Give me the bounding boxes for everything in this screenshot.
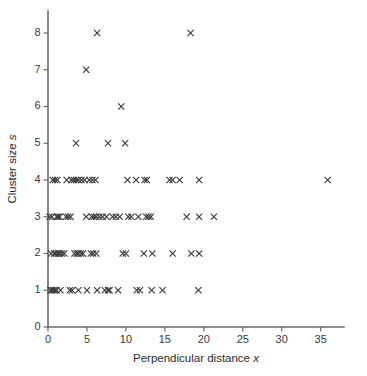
axis-title-symbol: s [6, 134, 18, 140]
x-tick-label: 10 [120, 333, 132, 345]
x-tick-label: 20 [198, 333, 210, 345]
y-tick-label: 1 [34, 283, 40, 295]
y-tick-label: 2 [34, 246, 40, 258]
y-tick-label: 8 [34, 26, 40, 38]
x-tick-label: 5 [84, 333, 90, 345]
x-tick-label: 0 [45, 333, 51, 345]
y-tick-label: 0 [34, 320, 40, 332]
chart-canvas: 012345678 05101520253035 Perpendicular d… [0, 0, 367, 376]
chart-background [0, 0, 367, 376]
x-tick-label: 30 [276, 333, 288, 345]
x-tick-label: 25 [237, 333, 249, 345]
x-tick-label: 35 [315, 333, 327, 345]
y-tick-label: 5 [34, 136, 40, 148]
y-tick-label: 3 [34, 210, 40, 222]
y-tick-label: 4 [34, 173, 40, 185]
y-tick-label: 6 [34, 99, 40, 111]
x-tick-label: 15 [159, 333, 171, 345]
y-axis-title: Cluster size s [6, 134, 18, 203]
x-axis-title: Perpendicular distance x [133, 352, 260, 364]
scatter-plot-figure: 012345678 05101520253035 Perpendicular d… [0, 0, 367, 376]
y-tick-label: 7 [34, 63, 40, 75]
